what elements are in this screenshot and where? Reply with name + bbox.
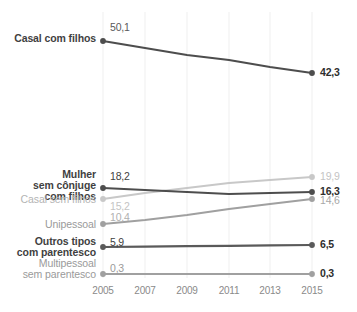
x-tick-2007: 2007 [125,285,165,296]
series-multipessoal [100,271,315,277]
series-outros-tipos [100,242,315,250]
series-label-casal-sem-filhos: Casal sem filhos [0,194,96,205]
value-label-mulher-start: 18,2 [110,170,130,182]
gridlines [103,12,312,278]
x-tick-2011: 2011 [209,285,249,296]
series-label-multipessoal: Multipessoal sem parentesco [0,258,96,280]
x-tick-2015: 2015 [292,285,332,296]
series-label-casal-com-filhos: Casal com filhos [0,33,96,44]
series-label-outros-tipos: Outros tipos com parentesco [0,236,96,258]
value-label-casal-com-filhos-end: 42,3 [320,66,340,78]
series-casal-com-filhos [100,38,315,76]
value-label-unipessoal-start: 10,4 [110,211,130,223]
value-label-casal-sem-filhos-end: 19,9 [320,170,340,182]
x-tick-2013: 2013 [250,285,290,296]
series-casal-sem-filhos [100,174,315,202]
x-tick-2009: 2009 [167,285,207,296]
value-label-outros-start: 5,9 [110,236,124,248]
x-tick-2005: 2005 [83,285,123,296]
value-label-outros-end: 6,5 [320,238,334,250]
series-unipessoal [100,196,315,227]
series-label-unipessoal: Unipessoal [0,219,96,230]
value-label-multipessoal-end: 0,3 [320,267,334,279]
value-label-casal-com-filhos-start: 50,1 [110,21,130,33]
slope-chart: Casal com filhos Mulher sem cônjuge com … [0,0,357,312]
value-label-multipessoal-start: 0,3 [110,262,124,274]
value-label-unipessoal-end: 14,6 [320,194,340,206]
